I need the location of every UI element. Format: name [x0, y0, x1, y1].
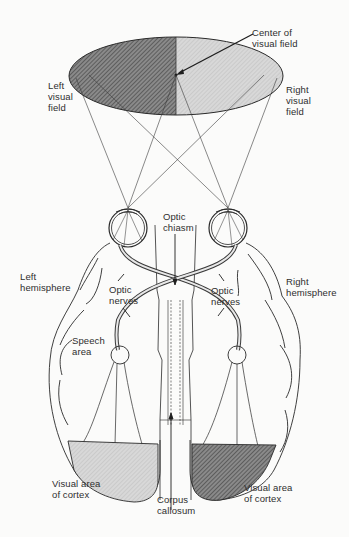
label-optic-chiasm: Optic chiasm — [163, 211, 194, 233]
label-center-of-visual-field: Center of visual field — [252, 27, 298, 49]
label-left-hemisphere: Left hemisphere — [20, 271, 71, 293]
right-eye — [209, 209, 247, 247]
optic-radiations — [82, 362, 258, 446]
label-right-visual-field: Right visual field — [286, 84, 311, 117]
label-right-hemisphere: Right hemisphere — [286, 276, 337, 298]
label-corpus-callosum: Corpus callosum — [157, 494, 195, 516]
label-visual-area-left: Visual area of cortex — [52, 478, 100, 500]
label-visual-area-right: Visual area of cortex — [244, 482, 292, 504]
left-eye — [109, 209, 147, 247]
left-lateral-geniculate — [111, 346, 129, 364]
label-left-visual-field: Left visual field — [48, 80, 73, 113]
label-optic-nerves-right: Optic nerves — [211, 285, 240, 307]
label-optic-nerves-left: Optic nerves — [109, 284, 138, 306]
label-speech-area: Speech area — [72, 335, 105, 357]
